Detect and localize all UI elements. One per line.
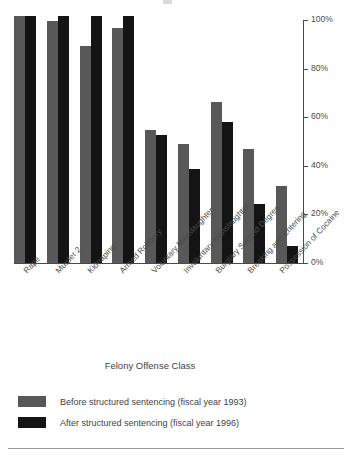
y-axis-tick-label: 100%	[311, 15, 333, 24]
scan-artifact	[163, 0, 172, 4]
y-axis-tick	[303, 69, 308, 70]
bar-before	[80, 46, 91, 263]
bar-before	[47, 21, 58, 263]
bar-after	[222, 122, 233, 263]
y-axis-tick	[303, 117, 308, 118]
page-divider-rule	[8, 448, 344, 449]
bar-after	[25, 16, 36, 263]
y-axis-tick	[303, 166, 308, 167]
y-axis-tick	[303, 20, 308, 21]
legend-swatch-after	[18, 417, 46, 428]
x-axis-title: Felony Offense Class	[0, 360, 300, 371]
y-axis-tick-label: 60%	[311, 112, 328, 121]
y-axis-tick-label: 40%	[311, 161, 328, 170]
bar-before	[276, 186, 287, 263]
bar-group	[80, 16, 106, 263]
bar-before	[112, 28, 123, 263]
legend-item-before: Before structured sentencing (fiscal yea…	[18, 396, 338, 407]
bar-group	[145, 16, 171, 263]
legend-label-before: Before structured sentencing (fiscal yea…	[60, 397, 247, 407]
legend-item-after: After structured sentencing (fiscal year…	[18, 417, 338, 428]
legend-swatch-before	[18, 396, 46, 407]
bar-after	[156, 135, 167, 263]
y-axis-tick-label: 80%	[311, 64, 328, 73]
bar-after	[58, 16, 69, 263]
bar-group	[47, 16, 73, 263]
bar-before	[14, 16, 25, 263]
bar-group	[14, 16, 40, 263]
x-axis-category-labels: RapeMurder 2KidnapingArmed RobberyVolunt…	[0, 263, 352, 353]
bar-chart-figure: 0%20%40%60%80%100% RapeMurder 2Kidnaping…	[0, 0, 352, 459]
y-axis-line	[303, 20, 304, 264]
bar-after	[123, 16, 134, 263]
bar-group	[112, 16, 138, 263]
chart-legend: Before structured sentencing (fiscal yea…	[18, 396, 338, 438]
legend-label-after: After structured sentencing (fiscal year…	[60, 418, 239, 428]
bar-after	[91, 16, 102, 263]
